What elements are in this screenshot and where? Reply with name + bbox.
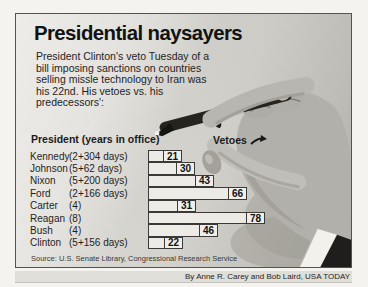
veto-bar: 78 (148, 212, 262, 224)
chart-row: Carter (4) 31 (30, 200, 347, 212)
newsprint-page: Presidential naysayers President Clinton… (0, 0, 368, 287)
president-name: Johnson (30, 163, 69, 174)
veto-count: 22 (164, 237, 183, 249)
president-name: Bush (30, 225, 69, 236)
veto-count: 31 (177, 200, 196, 212)
president-name: Nixon (30, 175, 69, 186)
years-in-office: (8) (69, 213, 148, 224)
chart-row: Bush (4) 46 (30, 224, 347, 236)
veto-bar: 22 (148, 237, 180, 249)
bar-chart: Kennedy (2+304 days) 21 Johnson (5+62 da… (30, 150, 347, 249)
president-name: Carter (30, 200, 69, 211)
years-in-office: (5+156 days) (69, 237, 148, 248)
column-header-president: President (years in office) (31, 133, 159, 145)
years-in-office: (5+200 days) (69, 175, 148, 186)
chart-row: Ford (2+166 days) 66 (30, 187, 347, 199)
veto-count: 46 (199, 224, 218, 236)
president-name: Reagan (30, 213, 69, 224)
chart-row: Johnson (5+62 days) 30 (30, 162, 347, 174)
veto-count: 66 (228, 187, 247, 199)
chart-row: Clinton (5+156 days) 22 (30, 237, 347, 249)
veto-bar: 43 (148, 175, 211, 187)
veto-count: 21 (163, 150, 182, 162)
credit-line: By Anne R. Carey and Bob Laird, USA TODA… (15, 271, 352, 283)
chart-row: Nixon (5+200 days) 43 (30, 175, 347, 187)
years-in-office: (5+62 days) (69, 163, 148, 174)
president-name: Kennedy (30, 151, 69, 162)
source-line: Source: U.S. Senate Library, Congression… (31, 254, 237, 263)
veto-count: 78 (246, 212, 265, 224)
veto-count: 30 (176, 162, 195, 174)
veto-count: 43 (195, 175, 214, 187)
arrow-icon (250, 134, 268, 146)
years-in-office: (4) (69, 225, 148, 236)
years-in-office: (2+166 days) (69, 188, 148, 199)
intro-text: President Clinton's veto Tuesday of a bi… (36, 51, 222, 109)
chart-row: Kennedy (2+304 days) 21 (30, 150, 347, 162)
veto-bar: 30 (148, 162, 192, 174)
president-name: Ford (30, 188, 69, 199)
years-in-office: (4) (69, 200, 148, 211)
chart-row: Reagan (8) 78 (30, 212, 347, 224)
years-in-office: (2+304 days) (69, 151, 148, 162)
veto-bar: 21 (148, 150, 179, 162)
veto-bar: 46 (148, 224, 215, 236)
infographic-box: Presidential naysayers President Clinton… (15, 13, 352, 268)
president-name: Clinton (30, 237, 69, 248)
column-header-vetoes: Vetoes (213, 134, 268, 146)
page-title: Presidential naysayers (34, 21, 242, 45)
veto-bar: 66 (148, 187, 244, 199)
veto-bar: 31 (148, 200, 193, 212)
vetoes-label: Vetoes (213, 134, 247, 146)
